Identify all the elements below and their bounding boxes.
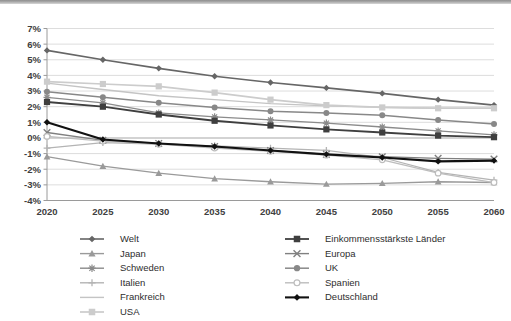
data-point-marker	[323, 126, 329, 132]
data-point-marker	[211, 73, 217, 79]
y-axis-tick-label: 4%	[27, 70, 41, 81]
data-point-marker	[491, 180, 497, 186]
chart-legend: WeltJapanSchwedenItalienFrankreichUSAEin…	[80, 233, 445, 317]
chart-figure: 7%6%5%4%3%2%1%0%-1%-2%-3%-4% 20202025203…	[0, 0, 511, 321]
data-point-marker	[323, 120, 330, 127]
data-point-marker	[156, 83, 162, 89]
legend-label: Frankreich	[120, 291, 165, 302]
data-point-marker	[435, 96, 441, 102]
y-axis-tick-label: 7%	[27, 23, 41, 34]
y-axis-tick-label: 0%	[27, 132, 41, 143]
legend-item[interactable]: Einkommensstärkste Länder	[285, 233, 445, 244]
data-point-marker	[100, 57, 106, 63]
y-axis-tick-label: -2%	[24, 164, 41, 175]
y-axis-tick-label: 5%	[27, 54, 41, 65]
legend-item[interactable]: Europa	[285, 248, 356, 259]
data-point-marker	[89, 309, 96, 316]
grid-layer	[44, 29, 495, 201]
data-point-marker	[100, 104, 106, 110]
y-axis-tick-label: 1%	[27, 117, 41, 128]
y-axis-tick-label: 2%	[27, 101, 41, 112]
data-point-marker	[267, 97, 273, 103]
legend-label: Japan	[120, 248, 146, 259]
y-axis-tick-label: -1%	[24, 148, 41, 159]
legend-label: Italien	[120, 277, 145, 288]
legend-item[interactable]: Frankreich	[80, 291, 165, 302]
data-point-marker	[268, 108, 274, 114]
x-axis-tick-label: 2035	[204, 206, 226, 217]
data-point-marker	[323, 102, 329, 108]
data-point-marker	[435, 170, 441, 176]
data-point-marker	[379, 104, 385, 110]
data-point-marker	[156, 111, 162, 117]
data-point-marker	[44, 119, 50, 125]
data-point-marker	[100, 94, 106, 100]
line-chart: 7%6%5%4%3%2%1%0%-1%-2%-3%-4% 20202025203…	[0, 0, 511, 321]
legend-item[interactable]: Spanien	[285, 277, 360, 288]
legend-label: UK	[325, 262, 339, 273]
data-point-marker	[44, 145, 51, 152]
data-point-marker	[88, 265, 95, 272]
data-point-marker	[491, 121, 497, 127]
chart-series	[44, 134, 497, 186]
legend-item[interactable]: Italien	[80, 277, 145, 288]
legend-item[interactable]: Deutschland	[285, 291, 378, 302]
data-point-marker	[44, 153, 51, 159]
legend-label: Spanien	[325, 277, 360, 288]
data-point-marker	[156, 100, 162, 106]
legend-item[interactable]: UK	[285, 262, 339, 273]
y-axis-tick-label: -3%	[24, 179, 41, 190]
data-point-marker	[44, 134, 50, 140]
data-point-marker	[212, 90, 218, 96]
data-point-marker	[491, 134, 497, 140]
legend-item[interactable]: Japan	[80, 248, 146, 259]
y-axis-tick-label: 6%	[27, 39, 41, 50]
x-axis-tick-label: 2045	[316, 206, 338, 217]
x-axis-tick-label: 2060	[483, 206, 504, 217]
legend-label: Europa	[325, 248, 356, 259]
x-axis-tick-label: 2040	[260, 206, 281, 217]
legend-label: Einkommensstärkste Länder	[325, 233, 445, 244]
data-point-marker	[267, 79, 273, 85]
x-axis-tick-label: 2025	[92, 206, 114, 217]
data-point-marker	[294, 294, 301, 301]
data-point-marker	[267, 122, 273, 128]
data-point-marker	[435, 105, 441, 111]
data-point-marker	[323, 85, 329, 91]
legend-label: USA	[120, 306, 140, 317]
data-point-marker	[100, 81, 106, 87]
data-point-marker	[156, 65, 162, 71]
x-axis-tick-label: 2050	[372, 206, 393, 217]
data-point-marker	[212, 104, 218, 110]
data-point-marker	[89, 236, 96, 243]
data-point-marker	[294, 280, 300, 286]
data-point-marker	[294, 265, 300, 271]
legend-item[interactable]: Schweden	[80, 262, 164, 273]
data-point-marker	[44, 99, 50, 105]
y-axis-tick-label: -4%	[24, 195, 41, 206]
data-point-marker	[44, 79, 50, 85]
data-point-marker	[435, 133, 441, 139]
data-point-marker	[44, 47, 50, 53]
x-axis-tick-label: 2030	[148, 206, 169, 217]
x-axis-tick-label: 2055	[428, 206, 450, 217]
data-point-marker	[491, 105, 497, 111]
data-point-marker	[88, 279, 95, 286]
y-axis-tick-labels: 7%6%5%4%3%2%1%0%-1%-2%-3%-4%	[24, 23, 41, 206]
data-point-marker	[323, 110, 329, 116]
y-axis-tick-label: 3%	[27, 85, 41, 96]
legend-item[interactable]: Welt	[80, 233, 139, 244]
data-point-marker	[435, 158, 441, 164]
data-point-marker	[294, 236, 301, 243]
series-layer	[44, 47, 498, 187]
x-axis-tick-label: 2020	[36, 206, 57, 217]
x-axis-tick-labels: 202020252030203520402045205020552060	[36, 206, 504, 217]
legend-label: Welt	[120, 233, 139, 244]
legend-label: Schweden	[120, 262, 164, 273]
data-point-marker	[44, 89, 50, 95]
legend-item[interactable]: USA	[80, 306, 140, 317]
legend-label: Deutschland	[325, 291, 378, 302]
data-point-marker	[379, 112, 385, 118]
data-point-marker	[379, 129, 385, 135]
data-point-marker	[212, 118, 218, 124]
